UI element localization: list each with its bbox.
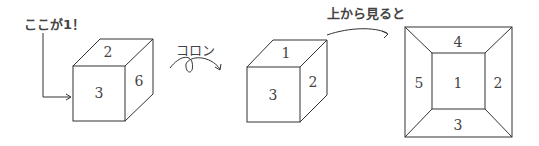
- dice-diagram: 2 3 6 1 3 2 4 5 1 2 3: [0, 0, 539, 146]
- topview-right-number: 2: [494, 75, 503, 91]
- topview-bottom-number: 3: [454, 117, 463, 133]
- cube1-right-number: 6: [135, 73, 144, 89]
- top-view-arrow: [327, 29, 387, 35]
- topview-left-number: 5: [415, 75, 424, 91]
- topview-top-number: 4: [454, 34, 463, 50]
- topview-center-number: 1: [454, 75, 463, 91]
- top-view-arrowhead: [382, 31, 388, 38]
- pointer-arrow: [43, 33, 70, 97]
- cube1-front-number: 3: [95, 85, 104, 101]
- cube1-top-number: 2: [104, 44, 113, 60]
- cube2-top-number: 1: [282, 45, 291, 61]
- roll-arrow: [170, 57, 220, 72]
- cube2-right-number: 2: [309, 74, 318, 90]
- cube2-front-number: 3: [269, 87, 278, 103]
